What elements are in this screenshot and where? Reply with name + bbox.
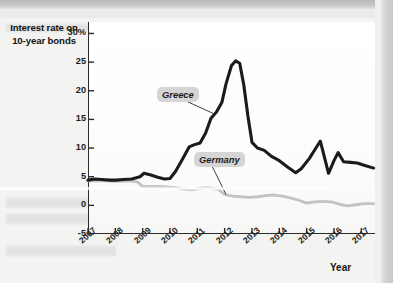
series-line-germany [88, 181, 374, 206]
series-label-germany: Germany [194, 152, 245, 167]
chart-lines [0, 0, 393, 283]
leader-line-greece [186, 101, 214, 114]
page-right-edge-shadow [381, 0, 393, 283]
series-label-greece: Greece [157, 87, 199, 102]
scan-streak-artifact [0, 186, 330, 191]
chart-page: Interest rate on 10-year bonds Year 30%2… [0, 0, 393, 283]
